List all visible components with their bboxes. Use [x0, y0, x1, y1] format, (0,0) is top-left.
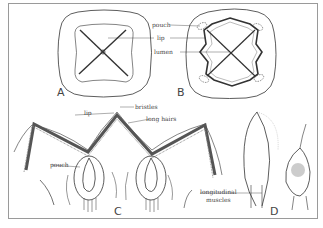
label-bristles-c: bristles [135, 104, 158, 110]
label-lumen-b: lumen [154, 49, 173, 55]
panel-a-drawing [58, 10, 152, 97]
label-muscles-d: muscles [206, 197, 231, 203]
panel-label-b: B [177, 87, 185, 98]
label-longitudinal-d: longitudinal [200, 189, 237, 195]
label-lip-c: lip [84, 110, 92, 116]
panel-c-drawing [14, 107, 222, 212]
panel-label-a: A [57, 87, 65, 98]
label-pouch-b: pouch [152, 22, 171, 28]
label-long-hairs-c: long hairs [146, 116, 176, 122]
label-pouch-c: pouch [50, 162, 69, 168]
label-lip-b: lip [157, 35, 165, 41]
panel-b-drawing [108, 9, 276, 99]
panel-label-c: C [114, 206, 122, 217]
panel-label-d: D [270, 206, 278, 217]
